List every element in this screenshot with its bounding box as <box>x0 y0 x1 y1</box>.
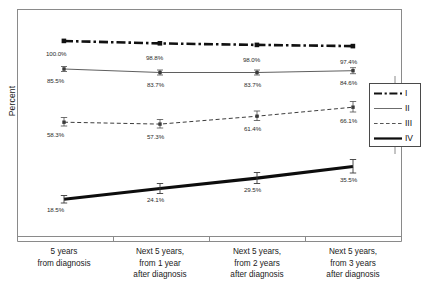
data-label: 66.1% <box>340 117 357 124</box>
data-label: 85.5% <box>47 77 64 84</box>
data-label: 61.4% <box>244 125 261 132</box>
chart-container: Percent <box>0 0 427 289</box>
x-label-line: from 3 years <box>301 258 405 270</box>
series-IV <box>61 160 356 204</box>
x-axis-category-3: Next 5 years, from 2 years after diagnos… <box>205 246 309 281</box>
chart-legend: I II III IV <box>369 83 421 147</box>
x-axis-category-4: Next 5 years, from 3 years after diagnos… <box>301 246 405 281</box>
data-label: 57.3% <box>147 133 164 140</box>
series-IV-error-bars <box>61 160 356 204</box>
data-label: 35.5% <box>340 176 357 183</box>
data-label: 97.4% <box>340 58 357 65</box>
series-III-marker <box>255 115 258 118</box>
series-III-marker <box>62 121 65 124</box>
series-I <box>62 39 356 49</box>
x-label-line: Next 5 years, <box>301 246 405 258</box>
series-II-marker <box>255 71 258 74</box>
x-label-line: Next 5 years, <box>108 246 212 258</box>
series-II <box>61 67 356 76</box>
data-label: 98.0% <box>243 56 260 63</box>
series-III-marker <box>351 106 354 109</box>
legend-label-III: III <box>405 117 412 129</box>
legend-item-I[interactable]: I <box>374 87 418 99</box>
legend-label-I: I <box>405 87 407 99</box>
legend-key-IV-icon <box>374 137 402 140</box>
series-III <box>61 102 356 129</box>
legend-item-IV[interactable]: IV <box>374 132 418 144</box>
series-IV-line <box>64 167 353 200</box>
data-label: 100.0% <box>46 50 66 57</box>
series-I-marker <box>62 39 67 44</box>
data-label: 83.7% <box>244 81 261 88</box>
x-label-line: from 2 years <box>205 258 309 270</box>
series-I-marker <box>158 41 163 46</box>
legend-label-IV: IV <box>405 132 413 144</box>
series-I-marker <box>351 44 356 49</box>
x-label-line: from diagnosis <box>12 258 116 270</box>
legend-item-III[interactable]: III <box>374 117 418 129</box>
series-III-line <box>64 107 353 124</box>
series-I-line <box>64 41 353 46</box>
x-label-line: Next 5 years, <box>205 246 309 258</box>
x-label-line: after diagnosis <box>205 269 309 281</box>
x-label-line: from 1 year <box>108 258 212 270</box>
x-label-line: 5 years <box>12 246 116 258</box>
series-II-marker <box>351 69 354 72</box>
data-label: 24.1% <box>147 196 164 203</box>
legend-key-III-icon <box>374 122 402 125</box>
data-label: 58.3% <box>47 131 64 138</box>
data-label: 83.7% <box>147 81 164 88</box>
series-I-marker <box>255 43 260 48</box>
data-label: 18.5% <box>47 206 64 213</box>
x-label-line: after diagnosis <box>301 269 405 281</box>
legend-key-II-icon <box>374 107 402 110</box>
x-label-line: after diagnosis <box>108 269 212 281</box>
series-II-marker <box>62 67 65 70</box>
series-III-error-bars <box>61 102 356 129</box>
x-axis-category-2: Next 5 years, from 1 year after diagnosi… <box>108 246 212 281</box>
x-axis-category-1: 5 years from diagnosis <box>12 246 116 269</box>
x-axis-ticks <box>18 237 402 242</box>
data-label: 29.5% <box>244 186 261 193</box>
legend-label-II: II <box>405 102 410 114</box>
data-label: 98.8% <box>146 54 163 61</box>
series-II-line <box>64 69 353 73</box>
legend-key-I-icon <box>374 92 402 95</box>
legend-item-II[interactable]: II <box>374 102 418 114</box>
data-label: 84.6% <box>340 79 357 86</box>
series-III-marker <box>158 122 161 125</box>
series-II-marker <box>158 71 161 74</box>
